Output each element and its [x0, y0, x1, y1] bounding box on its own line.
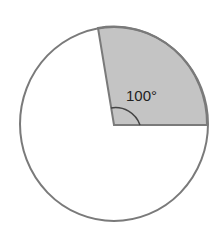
circle-diagram: 100°	[0, 0, 224, 238]
angle-label: 100°	[126, 87, 157, 104]
shaded-sector	[98, 27, 207, 125]
